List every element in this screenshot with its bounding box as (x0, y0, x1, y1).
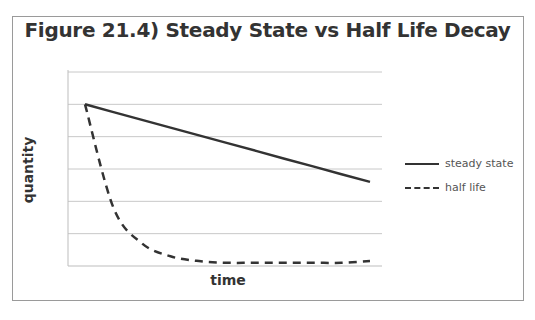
y-axis-label: quantity (20, 137, 36, 204)
solid-line-swatch-icon (405, 163, 439, 165)
legend-item-half-life: half life (405, 181, 486, 194)
steady-state-line (85, 104, 370, 182)
dashed-line-swatch-icon (405, 187, 439, 189)
legend-label: half life (445, 181, 486, 194)
half-life-line (85, 104, 370, 263)
gridlines (68, 72, 382, 266)
legend-label: steady state (445, 157, 513, 170)
legend-item-steady-state: steady state (405, 157, 513, 170)
x-axis-label: time (210, 272, 246, 288)
